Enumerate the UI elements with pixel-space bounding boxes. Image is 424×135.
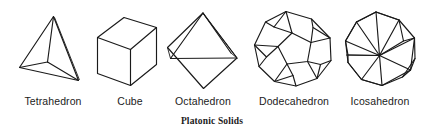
figure-caption: Platonic Solids xyxy=(0,116,424,126)
label-octahedron: Octahedron xyxy=(161,95,245,107)
tetrahedron-drawing xyxy=(20,17,80,81)
cube-drawing xyxy=(98,18,157,86)
dodecahedron-drawing xyxy=(255,12,332,87)
label-icosahedron: Icosahedron xyxy=(337,95,423,107)
icosahedron-drawing xyxy=(346,12,416,86)
solids-illustration xyxy=(0,0,424,135)
octahedron-drawing xyxy=(168,13,238,89)
label-tetrahedron: Tetrahedron xyxy=(10,95,96,107)
label-cube: Cube xyxy=(104,95,156,107)
label-dodecahedron: Dodecahedron xyxy=(245,95,343,107)
platonic-solids-figure: Tetrahedron Cube Octahedron Dodecahedron… xyxy=(0,0,424,135)
